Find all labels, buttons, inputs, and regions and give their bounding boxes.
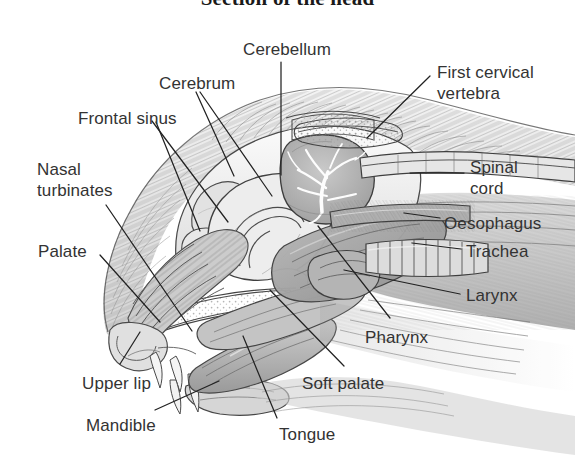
figure-canvas: Section of the head (0, 0, 575, 463)
label-larynx: Larynx (466, 285, 518, 306)
label-first-cervical-vertebra: First cervical vertebra (437, 62, 534, 104)
label-tongue: Tongue (279, 424, 335, 445)
label-nasal-turbinates: Nasal turbinates (37, 159, 113, 201)
label-cerebellum: Cerebellum (243, 39, 331, 60)
label-oesophagus: Oesophagus (444, 213, 541, 234)
label-pharynx: Pharynx (365, 327, 428, 348)
label-cerebrum: Cerebrum (159, 73, 235, 94)
label-trachea: Trachea (466, 241, 528, 262)
label-mandible: Mandible (86, 415, 156, 436)
label-palate: Palate (38, 241, 87, 262)
label-upper-lip: Upper lip (82, 373, 151, 394)
first-cervical-vertebra-structure (294, 118, 402, 148)
label-frontal-sinus: Frontal sinus (78, 108, 177, 129)
label-spinal-cord: Spinal cord (470, 157, 518, 199)
label-soft-palate: Soft palate (302, 373, 384, 394)
